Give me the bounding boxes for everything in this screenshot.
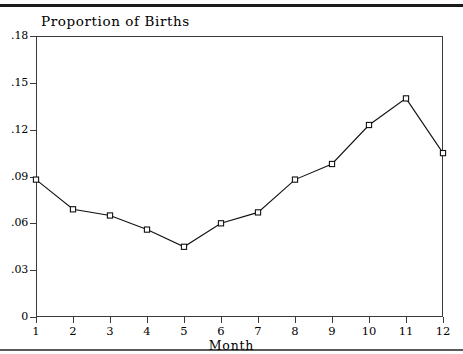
line-series-births — [36, 98, 443, 246]
data-point-marker — [366, 122, 371, 127]
data-point-marker — [107, 213, 112, 218]
chart-page: Proportion of Births .18.15.12.09.06.030… — [0, 0, 463, 354]
data-point-marker — [70, 207, 75, 212]
data-point-marker — [292, 177, 297, 182]
data-point-marker — [218, 221, 223, 226]
data-point-marker — [255, 210, 260, 215]
data-point-marker — [181, 244, 186, 249]
x-axis-title: Month — [0, 338, 463, 353]
data-point-marker — [403, 96, 408, 101]
data-point-marker — [144, 227, 149, 232]
series-layer — [0, 0, 463, 354]
data-point-marker — [33, 177, 38, 182]
data-point-markers — [33, 96, 445, 250]
data-point-marker — [329, 161, 334, 166]
data-point-marker — [440, 151, 445, 156]
